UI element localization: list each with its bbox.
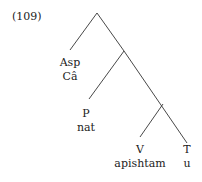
- node-v-word: apishtam: [114, 157, 165, 171]
- node-p-word: nat: [77, 121, 95, 135]
- node-t: T u: [183, 143, 190, 171]
- node-v-category: V: [114, 143, 165, 157]
- node-asp-category: Asp: [60, 56, 81, 70]
- node-p: P nat: [77, 107, 95, 135]
- node-asp: Asp Câ: [60, 56, 81, 84]
- node-t-category: T: [183, 143, 190, 157]
- syntax-tree-branches: [0, 0, 202, 182]
- node-t-word: u: [183, 157, 190, 171]
- node-v: V apishtam: [114, 143, 165, 171]
- node-p-category: P: [77, 107, 95, 121]
- node-asp-word: Câ: [60, 70, 81, 84]
